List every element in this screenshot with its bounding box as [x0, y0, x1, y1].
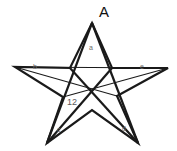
star-figure: A a b e c d 12 — [0, 0, 177, 151]
region-label-e: e — [140, 63, 144, 70]
vertex-label-a-upper: A — [99, 4, 109, 19]
region-label-a: a — [89, 44, 93, 51]
region-label-c: c — [57, 126, 61, 133]
region-label-b: b — [33, 63, 37, 70]
measure-label-12: 12 — [67, 98, 77, 107]
star-diagram — [0, 0, 177, 151]
region-label-d: d — [122, 125, 126, 132]
star-polygon — [15, 23, 168, 143]
star-outline-group — [15, 23, 168, 143]
